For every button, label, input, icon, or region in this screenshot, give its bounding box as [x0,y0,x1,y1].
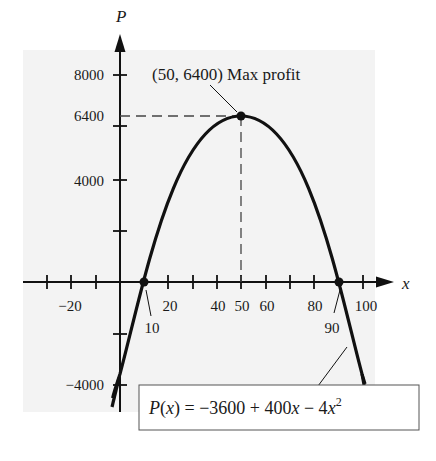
max-point [237,112,246,121]
x-tick-20: 20 [163,298,178,314]
root-point-10 [140,278,149,287]
y-tick-8000: 8000 [74,67,104,83]
x-axis-arrow-icon [376,277,394,288]
max-annotation: (50, 6400) Max profit [152,65,301,84]
y-axis-arrow-icon [115,34,126,52]
root-label-10: 10 [145,320,160,336]
y-tick-neg4000: −4000 [66,377,104,393]
y-axis-label: P [115,7,126,26]
x-axis-label: x [401,274,410,293]
x-tick-neg20: −20 [58,298,81,314]
y-tick-6400: 6400 [74,108,104,124]
formula-text: P(x) = −3600 + 400x − 4x2 [148,395,342,419]
x-tick-60: 60 [260,298,275,314]
y-tick-4000: 4000 [74,173,104,189]
x-tick-80: 80 [308,298,323,314]
plot-background [23,50,375,412]
x-tick-100: 100 [355,298,378,314]
profit-chart: P 8000 6400 4000 −4000 x −20 20 40 50 60… [0,0,436,461]
x-tick-50: 50 [235,298,250,314]
root-point-90 [335,278,344,287]
root-label-90: 90 [325,320,340,336]
x-tick-40: 40 [211,298,226,314]
